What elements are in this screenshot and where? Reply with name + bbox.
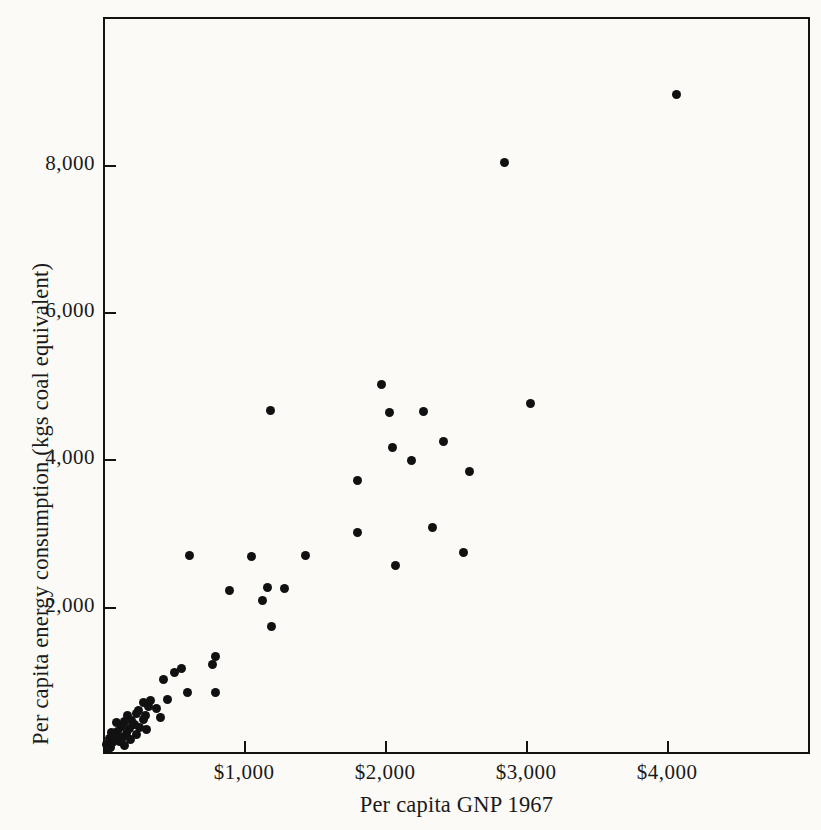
y-axis-tick <box>103 607 116 609</box>
y-axis-tick <box>103 312 116 314</box>
scatter-points-layer <box>103 17 810 754</box>
data-point <box>120 741 129 750</box>
data-point <box>103 745 112 754</box>
data-point <box>500 158 509 167</box>
x-axis-tick-label: $3,000 <box>471 760 581 785</box>
data-point <box>439 437 448 446</box>
data-point <box>225 586 234 595</box>
x-axis-tick <box>667 741 669 754</box>
data-point <box>142 725 151 734</box>
data-point <box>159 675 168 684</box>
data-point <box>428 523 437 532</box>
x-axis-tick-label: $4,000 <box>612 760 722 785</box>
data-point <box>156 713 165 722</box>
x-axis-tick <box>526 741 528 754</box>
figure-container: 2,0004,0006,0008,000 $1,000$2,000$3,000$… <box>0 0 821 830</box>
y-axis-tick <box>103 165 116 167</box>
data-point <box>377 380 386 389</box>
data-point <box>183 688 192 697</box>
data-point <box>353 528 362 537</box>
data-point <box>459 548 468 557</box>
data-point <box>672 90 681 99</box>
x-axis-tick-label: $2,000 <box>330 760 440 785</box>
data-point <box>419 407 428 416</box>
data-point <box>170 668 179 677</box>
data-point <box>208 660 217 669</box>
y-axis-title: Per capita energy consumption (kgs coal … <box>28 25 54 745</box>
data-point <box>258 596 267 605</box>
data-point <box>280 584 289 593</box>
data-point <box>391 561 400 570</box>
x-axis-title: Per capita GNP 1967 <box>103 792 810 818</box>
data-point <box>152 704 161 713</box>
data-point <box>163 695 172 704</box>
data-point <box>407 456 416 465</box>
data-point <box>267 622 276 631</box>
x-axis-tick <box>385 741 387 754</box>
data-point <box>353 476 362 485</box>
data-point <box>247 552 256 561</box>
data-point <box>266 406 275 415</box>
data-point <box>388 443 397 452</box>
data-point <box>465 467 474 476</box>
data-point <box>211 688 220 697</box>
y-axis-tick <box>103 459 116 461</box>
x-axis-tick <box>244 741 246 754</box>
data-point <box>526 399 535 408</box>
data-point <box>301 551 310 560</box>
x-axis-tick-label: $1,000 <box>189 760 299 785</box>
data-point <box>185 551 194 560</box>
data-point <box>385 408 394 417</box>
data-point <box>263 583 272 592</box>
